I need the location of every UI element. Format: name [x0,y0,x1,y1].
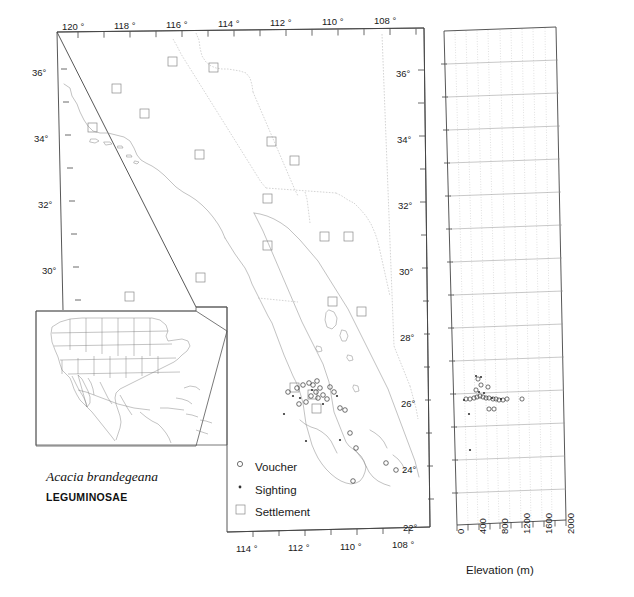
elevation-panel-border [444,27,566,525]
lat-right-label-5: 26° [401,393,415,411]
lon-top-label-2: 116 ° [166,14,188,32]
lon-bottom-label-2: 110 ° [340,536,362,554]
political-borders [173,33,418,419]
frame-left-upper [57,32,63,310]
map-plate [0,0,634,597]
lat-left-label-0: 36° [32,62,46,80]
lat-left-label-2: 32° [38,194,52,212]
lon-bottom-label-1: 112 ° [288,537,310,555]
legend-item-settlement: Settlement [255,502,310,520]
lon-top-label-4: 112 ° [270,12,292,30]
frame-top [57,28,424,32]
voucher-points-map [286,379,399,484]
lon-top-label-6: 108 ° [374,10,396,28]
lat-left-label-3: 30° [42,260,56,278]
elevation-voucher-points [464,377,524,411]
latitude-left-ticks [61,69,81,300]
longitude-bottom-ticks [253,528,409,537]
legend-sighting-icon [239,486,242,489]
north-america-inset [36,307,227,446]
lat-right-label-0: 36° [396,63,410,81]
lat-right-label-6: 24° [402,459,416,477]
lon-top-label-1: 118 ° [114,15,136,33]
lat-right-label-3: 30° [399,261,413,279]
lat-right-label-1: 34° [397,129,411,147]
lat-right-label-4: 28° [400,327,414,345]
elevation-panel-frame [444,27,566,525]
elev-x-label-1: 400 [472,518,490,534]
elevation-grid-horizontal [446,60,566,493]
frame-right [424,28,430,527]
elevation-latitude-ticks [441,64,458,493]
lat-right-label-7: 22° [403,517,417,535]
main-map-frame [57,28,430,532]
legend-item-voucher: Voucher [255,457,297,475]
elev-x-label-5: 2000 [560,513,578,534]
elevation-axis-title: Elevation (m) [466,560,534,578]
legend-label-voucher: Voucher [255,461,297,473]
frame-bottom [227,527,430,532]
lon-bottom-label-0: 114 ° [236,538,258,556]
legend [236,461,245,514]
legend-voucher-icon [237,461,242,466]
lat-left-label-1: 34° [34,128,48,146]
elev-x-label-0: 0 [450,529,468,534]
legend-item-sighting: Sighting [255,480,297,498]
inset-landmass [51,318,212,443]
legend-label-sighting: Sighting [255,484,297,496]
sighting-points-map [283,389,341,442]
elev-x-label-2: 800 [494,518,512,534]
latitude-right-ticks [418,70,434,499]
distribution-map-figure: 120 ° 118 ° 116 ° 114 ° 112 ° 110 ° 108 … [0,0,634,597]
taxon-species-name: Acacia brandegeana [46,467,158,485]
main-map-border [57,28,430,532]
coastlines [64,84,419,486]
lon-top-label-5: 110 ° [322,11,344,29]
legend-label-settlement: Settlement [255,506,310,518]
elev-x-label-3: 1200 [516,513,534,534]
lon-bottom-label-3: 108 ° [392,534,414,552]
lon-top-label-0: 120 ° [62,16,84,34]
taxon-family-name: LEGUMINOSAE [46,487,127,505]
legend-settlement-icon [236,505,245,514]
elev-x-label-4: 1600 [538,513,556,534]
lon-top-label-3: 114 ° [218,13,240,31]
lat-right-label-2: 32° [398,195,412,213]
